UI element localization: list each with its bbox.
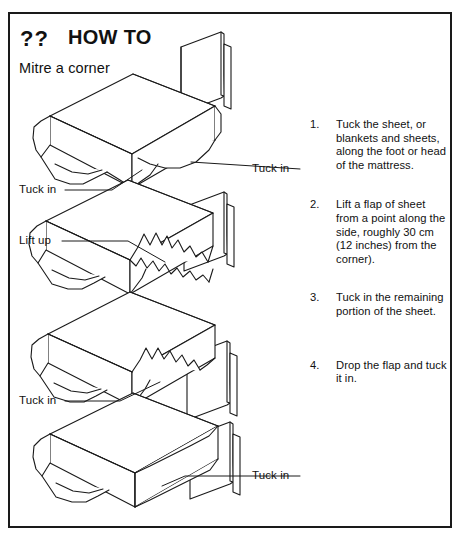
step-text: Tuck in the remaining portion of the she…	[336, 291, 448, 318]
figure-1	[33, 32, 231, 188]
steps-list: 1. Tuck the sheet, or blankets and sheet…	[306, 118, 448, 386]
callout-tuck-in-4: Tuck in	[252, 470, 289, 482]
step-number: 3.	[310, 291, 330, 305]
step-text: Lift a flap of sheet from a point along …	[336, 198, 448, 266]
mitre-corner-diagram	[10, 14, 302, 528]
callout-lift-up: Lift up	[19, 235, 51, 247]
step-number: 2.	[310, 198, 330, 212]
how-to-card: ?? HOW TO Mitre a corner	[8, 12, 452, 528]
figure-2	[29, 180, 234, 294]
step-item: 4. Drop the flap and tuck it in.	[306, 359, 448, 386]
step-text: Tuck the sheet, or blankets and sheets, …	[336, 118, 448, 172]
step-item: 1. Tuck the sheet, or blankets and sheet…	[306, 118, 448, 172]
step-number: 4.	[310, 359, 330, 373]
illustration-panel: Tuck in Tuck in Lift up Tuck in Tuck in	[10, 14, 302, 528]
callout-tuck-in-2: Tuck in	[19, 184, 56, 196]
step-number: 1.	[310, 118, 330, 132]
step-text: Drop the flap and tuck it in.	[336, 359, 448, 386]
callout-tuck-in-3: Tuck in	[19, 395, 56, 407]
step-item: 3. Tuck in the remaining portion of the …	[306, 291, 448, 318]
step-item: 2. Lift a flap of sheet from a point alo…	[306, 198, 448, 266]
callout-tuck-in-1: Tuck in	[252, 163, 289, 175]
